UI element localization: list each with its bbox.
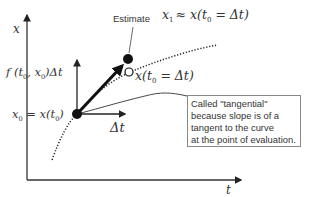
delta-t-label: Δt [109,120,125,135]
x0-label: x0 = x(t0) [12,107,64,123]
x-axis-label: t [226,183,231,197]
y-axis-label: x [13,22,20,36]
estimate-pointer [129,27,133,53]
callout-line: Called "tangential" [191,98,297,110]
callout-line: at the point of evaluation. [191,134,297,146]
x0-point [72,109,82,119]
callout-box: Called "tangential" because slope is of … [187,95,301,147]
estimate-formula: x1≈ x(t0 = Δt) [162,7,249,24]
tangent-arrow [77,66,122,114]
estimate-point [123,54,133,64]
callout-line: because slope is of a [191,110,297,122]
slope-term-label: f (t0, x0)Δt [5,65,63,81]
callout-leader [81,93,187,113]
tangential-euler-diagram: x t Estimate x1≈ x(t0 = Δt) x(t0 = Δt) f… [0,0,313,197]
callout-line: tangent to the curve [191,122,297,134]
estimate-label: Estimate [113,13,150,24]
true-value-label: x(t0 = Δt) [135,68,194,85]
true-value-point [125,68,133,76]
